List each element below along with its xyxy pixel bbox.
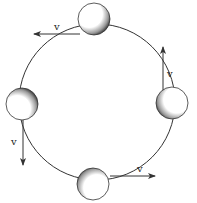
ball-right [156, 87, 188, 119]
velocity-left-arrow: v [10, 120, 23, 165]
velocity-right-arrow: v [163, 47, 173, 90]
ball-left [6, 88, 38, 120]
circular-motion-diagram: v v v v [0, 0, 197, 203]
velocity-top-label: v [53, 21, 60, 32]
velocity-bottom-arrow: v [110, 163, 155, 176]
ball-top [78, 3, 110, 35]
velocity-bottom-label: v [136, 163, 143, 174]
circular-path [19, 24, 175, 180]
velocity-left-label: v [10, 136, 17, 147]
ball-bottom [77, 168, 109, 200]
velocity-right-label: v [166, 68, 173, 79]
